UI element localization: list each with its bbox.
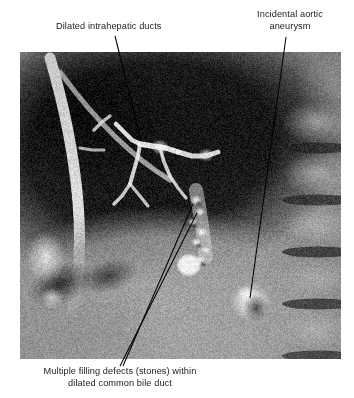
annotation-incidental-aortic-aneurysm: Incidental aortic aneurysm [238,9,342,32]
annotation-dilated-intrahepatic-ducts: Dilated intrahepatic ducts [56,21,162,33]
mri-scan-image [20,52,341,359]
figure-container: Dilated intrahepatic ducts Incidental ao… [0,0,354,398]
annotation-multiple-filling-defects: Multiple filling defects (stones) within… [12,366,228,389]
mri-scan-canvas [20,52,341,359]
